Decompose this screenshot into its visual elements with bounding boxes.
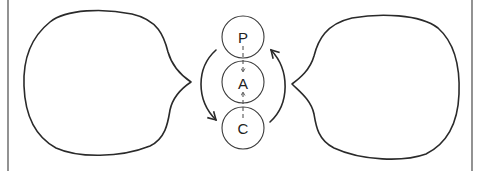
curved-arrow-right-c-to-p xyxy=(270,50,285,122)
left-speech-bubble xyxy=(24,10,191,155)
right-speech-bubble xyxy=(292,15,459,159)
node-P: P xyxy=(222,16,264,58)
pac-diagram: P A C xyxy=(0,0,482,171)
node-C-label: C xyxy=(238,120,249,137)
node-C: C xyxy=(222,107,264,149)
curved-arrow-left-p-to-c xyxy=(201,50,216,120)
node-A-label: A xyxy=(238,75,248,92)
node-P-label: P xyxy=(238,29,248,46)
